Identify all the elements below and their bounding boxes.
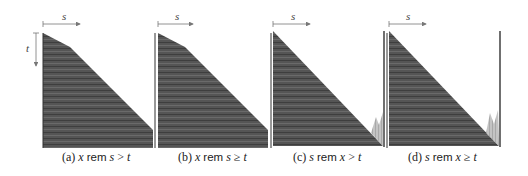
axis-label-s-c: s <box>291 10 295 22</box>
caption-a: (a) x rem s > t <box>62 150 130 165</box>
panel-a-plot <box>43 33 153 148</box>
panel-b-plot <box>155 33 268 148</box>
caption-d: (d) s rem x ≥ t <box>408 150 477 165</box>
axis-label-s-a: s <box>62 10 66 22</box>
caption-b: (b) x rem s ≥ t <box>178 150 247 165</box>
axis-label-t: t <box>26 42 30 54</box>
axis-label-s-d: s <box>406 10 410 22</box>
axis-t-arrow <box>33 33 39 66</box>
panel-c-plot <box>271 31 384 148</box>
panel-d-plot <box>387 31 500 148</box>
axis-label-s-b: s <box>175 10 179 22</box>
caption-c: (c) s rem x > t <box>293 150 361 165</box>
